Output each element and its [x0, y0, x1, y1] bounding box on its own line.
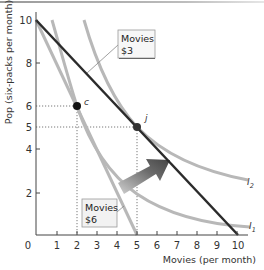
callout-6-line2: $6: [85, 214, 97, 225]
x-tick-1: 1: [54, 240, 60, 251]
x-tick-10: 10: [232, 240, 245, 251]
origin-label: 0: [25, 240, 31, 251]
x-tick-6: 6: [154, 240, 160, 251]
point-c-label: c: [84, 97, 89, 107]
callout-3-line1: Movies: [121, 33, 154, 44]
callout-6-line1: Movies: [85, 202, 118, 213]
y-tick-2: 2: [26, 188, 32, 199]
callout-3-line2: $3: [121, 45, 133, 56]
x-tick-labels: 0 1 2 3 4 5 6 7 8 9 10: [25, 240, 245, 251]
x-tick-5: 5: [134, 240, 140, 251]
y-tick-4: 4: [26, 144, 32, 155]
indifference-curve-i2: [84, 20, 248, 180]
y-tick-8: 8: [26, 58, 32, 69]
point-j: [133, 123, 141, 131]
curve-label-i2: I2: [247, 177, 254, 190]
x-axis-title: Movies (per month): [163, 254, 256, 265]
shift-arrow: [118, 159, 170, 194]
x-tick-2: 2: [74, 240, 80, 251]
x-tick-7: 7: [174, 240, 180, 251]
curve-label-i1: I1: [249, 221, 256, 234]
x-tick-8: 8: [194, 240, 200, 251]
point-j-label: j: [143, 113, 148, 123]
x-tick-4: 4: [114, 240, 120, 251]
y-tick-6: 6: [26, 101, 32, 112]
y-tick-10: 10: [19, 15, 32, 26]
x-tick-3: 3: [94, 240, 100, 251]
point-c: [73, 102, 81, 110]
y-tick-labels: 2 4 5 6 8 10: [19, 15, 32, 199]
x-tick-9: 9: [214, 240, 220, 251]
chart: 0 1 2 3 4 5 6 7 8 9 10 2 4 5 6 8 10 Movi…: [0, 0, 264, 270]
y-axis-title: Pop (six-packs per month): [3, 0, 14, 124]
y-tick-5: 5: [26, 122, 32, 133]
